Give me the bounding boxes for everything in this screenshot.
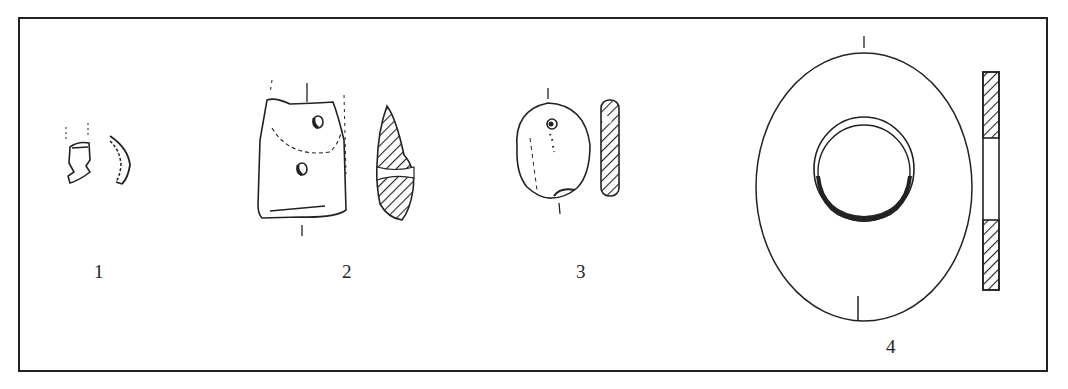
object-label-2: 2: [342, 262, 352, 281]
object-label-3: 3: [576, 262, 586, 281]
object-2-drawing: [258, 80, 414, 236]
drawing-canvas: [0, 0, 1068, 389]
object-4-drawing: [756, 36, 999, 321]
object-3-drawing: [517, 88, 619, 214]
object-1-drawing: [66, 123, 130, 184]
object-label-4: 4: [886, 337, 896, 356]
object-label-1: 1: [94, 262, 104, 281]
